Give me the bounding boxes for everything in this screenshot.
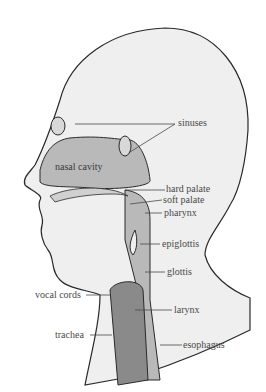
frontal-sinus xyxy=(51,117,65,135)
label-hard-palate: hard palate xyxy=(166,184,210,194)
label-soft-palate: soft palate xyxy=(163,195,204,205)
label-glottis: glottis xyxy=(167,267,192,277)
label-sinuses: sinuses xyxy=(178,118,207,128)
label-esophagus: esophagus xyxy=(183,340,225,350)
label-epiglottis: epiglottis xyxy=(162,239,199,249)
sphenoid-sinus xyxy=(119,136,131,156)
label-trachea: trachea xyxy=(55,330,84,340)
label-vocal-cords: vocal cords xyxy=(35,290,81,300)
label-pharynx: pharynx xyxy=(164,208,197,218)
head-diagram xyxy=(0,0,266,392)
label-larynx: larynx xyxy=(174,305,200,315)
label-nasal-cavity: nasal cavity xyxy=(55,162,102,172)
